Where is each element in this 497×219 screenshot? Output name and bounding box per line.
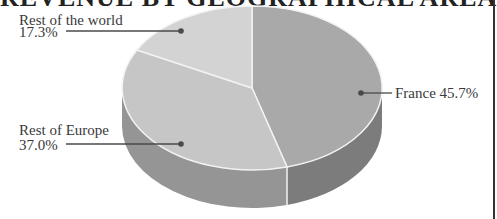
label-rest-of-europe-name: Rest of Europe	[19, 122, 109, 138]
leader-dot-world	[178, 28, 184, 34]
leader-dot-france	[358, 90, 364, 96]
label-france: France 45.7%	[395, 85, 478, 101]
pie-chart	[0, 0, 497, 219]
leader-dot-europe	[178, 141, 184, 147]
label-rest-of-europe-value: 37.0%	[19, 137, 58, 153]
label-rest-of-world-value: 17.3%	[19, 24, 58, 40]
